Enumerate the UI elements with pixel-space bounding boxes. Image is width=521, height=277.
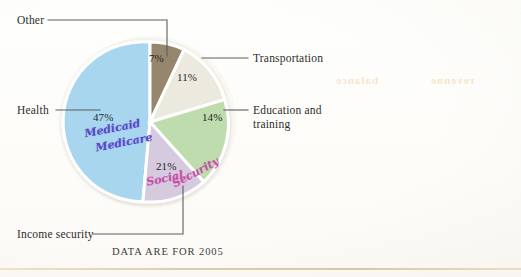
- bleed-through-text-right: revenue: [430, 74, 474, 86]
- slice-label-other: Other: [17, 14, 44, 28]
- slice-label-income-security: Income security: [17, 228, 94, 242]
- bleed-through-text-left: balance: [335, 74, 378, 86]
- slice-label-transportation: Transportation: [253, 52, 323, 66]
- slice-value-transportation: 11%: [177, 71, 197, 83]
- slice-label-education: Education and training: [253, 104, 322, 131]
- slice-value-health: 47%: [93, 111, 113, 123]
- slice-value-income-security: 21%: [156, 160, 176, 172]
- figure-caption: DATA ARE FOR 2005: [112, 246, 224, 257]
- slice-label-health: Health: [17, 104, 49, 118]
- bottom-rule: [0, 268, 521, 270]
- slice-value-other: 7%: [149, 52, 164, 64]
- slice-value-education: 14%: [202, 111, 222, 123]
- figure-page: 7% 11% 14% 21% 47% Other Health Income s…: [0, 0, 521, 277]
